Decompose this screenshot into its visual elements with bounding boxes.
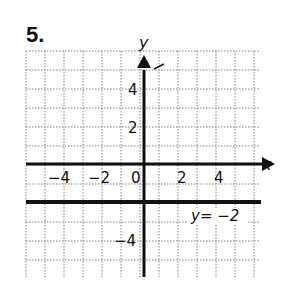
y-axis-arrow-icon: [137, 55, 151, 68]
y-tick-neg4: −4: [114, 232, 136, 250]
x-tick-2: 2: [177, 169, 187, 187]
y-tick-2: 2: [128, 119, 138, 137]
x-tick-neg2: −2: [88, 169, 110, 187]
x-axis-label: x: [261, 155, 272, 174]
coordinate-plane: y x −4 −2 0 2 4 4 2 −4 y= −2: [0, 0, 281, 284]
y-tick-4: 4: [128, 81, 138, 99]
y-axis: [137, 55, 164, 277]
x-tick-4: 4: [214, 169, 224, 187]
tick-mark-icon: [154, 64, 164, 69]
x-tick-neg4: −4: [48, 169, 70, 187]
y-axis-label: y: [138, 33, 149, 52]
x-tick-0: 0: [131, 169, 141, 187]
line-label: y= −2: [190, 207, 239, 225]
